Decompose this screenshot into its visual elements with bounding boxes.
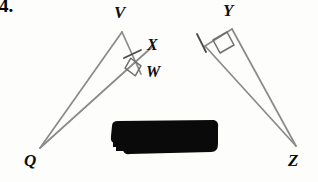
geometry-figure xyxy=(0,0,318,182)
triangle-YZ xyxy=(205,29,296,146)
segment-YZ xyxy=(232,29,296,146)
label-Y: Y xyxy=(223,2,233,19)
segment-QV xyxy=(40,32,122,148)
tick-mark-YZ-icon xyxy=(197,34,206,52)
label-Z: Z xyxy=(288,152,298,169)
label-X: X xyxy=(147,37,158,53)
label-V: V xyxy=(114,4,125,21)
segment-YleftZ xyxy=(205,46,296,146)
redaction-mark xyxy=(111,120,218,154)
right-angle-W-icon xyxy=(124,57,142,77)
label-W: W xyxy=(146,64,160,80)
figure-page: 4. xyxy=(0,0,318,182)
label-Q: Q xyxy=(24,152,36,169)
